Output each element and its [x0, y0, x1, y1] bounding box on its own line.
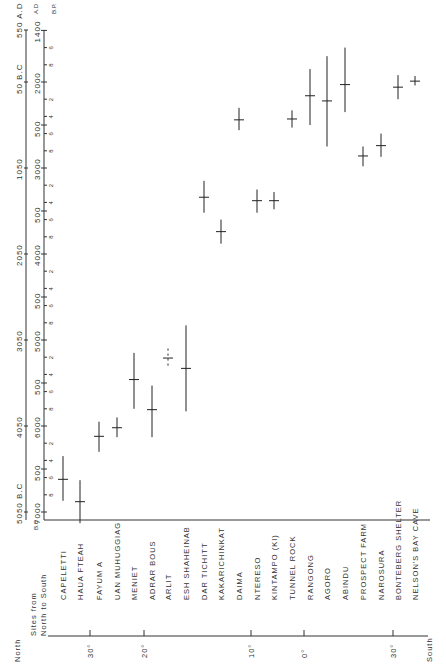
data-point-capeletti [58, 456, 68, 501]
data-point-adrar-bous [147, 386, 157, 438]
data-point-uan-muhuggiag [112, 417, 122, 437]
site-label: PROSPECT FARM [359, 523, 368, 600]
rotated-radiocarbon-chart: 550 A.D50 B.C10502050305040505050 B.CA.D… [0, 0, 446, 669]
data-point-tunnel-rock [287, 110, 297, 127]
bp-minor-label: 2 [48, 441, 54, 445]
site-label: ABINDU [341, 566, 350, 600]
bp-minor-label: 8 [48, 493, 54, 497]
south-label: South [425, 637, 434, 662]
site-label: ADRAR BOUS [148, 540, 157, 600]
bp-minor-label: 6 [48, 218, 54, 222]
bp-tick-label: 5000 [33, 330, 42, 352]
site-label: ESH SHAHEINAB [182, 526, 191, 600]
bp-tick-label: 6000 [33, 416, 42, 438]
site-label: FAYUM A [95, 561, 104, 600]
data-point-prospect-farm [358, 147, 368, 167]
bp-tick-label: 3000 [33, 158, 42, 180]
bp-minor-label: 2 [48, 183, 54, 187]
site-label: AGORO [323, 567, 332, 600]
latitude-tick-label: 30° [389, 644, 398, 658]
site-label: NTERESO [253, 557, 262, 600]
site-label: ARLIT [164, 574, 173, 600]
calendar-tick-label: 3050 [15, 330, 24, 352]
data-point-agoro [322, 56, 332, 146]
sites-header-line2: North to South [39, 574, 48, 636]
bp-tick-label: 4000 [33, 244, 42, 266]
data-point-daima [234, 108, 244, 130]
site-label: HAUA FTEAH [76, 543, 85, 600]
calendar-tick-label: 50 B.C [15, 64, 24, 94]
data-point-esh-shaheinab [181, 325, 191, 411]
data-point-fayum-a [94, 422, 104, 452]
bp-minor-label: 6 [48, 476, 54, 480]
calendar-tick-label: 5050 B.C [15, 483, 24, 524]
data-point-haua-fteah [75, 480, 85, 523]
bp-minor-label: 8 [48, 407, 54, 411]
site-label: NAROSURA [377, 549, 386, 600]
data-point-rangong [305, 69, 315, 125]
bp-tick-label: 1400 [33, 21, 42, 43]
latitude-tick-label: 10° [247, 644, 256, 658]
bp-minor-label: 4 [48, 372, 54, 376]
sites-header-line1: Sites from [29, 592, 38, 636]
site-label: MENIET [130, 566, 139, 600]
bp-tick-label: 7000 [33, 502, 42, 524]
latitude-tick-label: 0° [300, 649, 309, 658]
data-point-meniet [129, 353, 139, 409]
bp-minor-label: 4 [48, 286, 54, 290]
calendar-tick-label: 2050 [15, 244, 24, 266]
bp-tick-label: 500 [33, 121, 42, 137]
site-label: BONTEBERG SHELTER [394, 500, 403, 600]
site-label: KAKARICHINKAT [217, 527, 226, 600]
site-label: TUNNEL ROCK [288, 536, 297, 600]
bp-minor-label: 8 [48, 149, 54, 153]
site-label: UAN MUHUGGIAG [113, 522, 122, 600]
bp-tick-label: 500 [33, 207, 42, 223]
data-point-ntereso [252, 190, 262, 213]
latitude-tick-label: 30° [86, 644, 95, 658]
bp-minor-label: 6 [48, 132, 54, 136]
bp-minor-label: 4 [48, 114, 54, 118]
latitude-tick-label: 20° [140, 644, 149, 658]
data-point-bonteberg-shelter [393, 75, 403, 99]
calendar-tick-label: 550 A.D [15, 3, 24, 38]
bp-tick-label: 2000 [33, 72, 42, 94]
bp-minor-label: 2 [48, 269, 54, 273]
data-point-dar-tichitt [199, 181, 209, 213]
bp-minor-label: 6 [48, 304, 54, 308]
bp-minor-label: 2 [48, 97, 54, 101]
data-point-nelson-s-bay-cave [410, 76, 420, 85]
bp-minor-label: 6 [48, 390, 54, 394]
bp-minor-label: 2 [48, 355, 54, 359]
site-label: NELSON'S BAY CAVE [411, 507, 420, 600]
bp-minor-label: 8 [48, 321, 54, 325]
site-label: DAIMA [235, 571, 244, 600]
north-label: North [13, 639, 22, 662]
bp-minor-label: 4 [48, 458, 54, 462]
calendar-tick-label: 1050 [15, 158, 24, 180]
bp-tick-label: 500 [33, 379, 42, 395]
data-point-kakarichinkat [216, 220, 226, 244]
calendar-tick-label: 4050 [15, 416, 24, 438]
site-label: DAR TICHITT [200, 542, 209, 600]
ad-label: A.D [33, 3, 39, 14]
bp-minor-label: 6 [48, 46, 54, 50]
site-label: KINTAMPO (KI) [270, 534, 279, 600]
data-point-kintampo-ki- [269, 192, 279, 209]
bp-minor-label: 4 [48, 200, 54, 204]
bp-tick-label: 500 [33, 465, 42, 481]
site-label: CAPELETTI [59, 550, 68, 600]
bp-minor-label: 8 [48, 63, 54, 67]
data-point-arlit [163, 349, 173, 368]
bp-tick-label: 500 [33, 293, 42, 309]
data-point-narosura [376, 134, 386, 157]
bp-minor-label: 8 [48, 235, 54, 239]
data-point-abindu [340, 48, 350, 113]
site-label: RANGONG [306, 554, 315, 600]
bp-label: B.P. [51, 3, 57, 14]
